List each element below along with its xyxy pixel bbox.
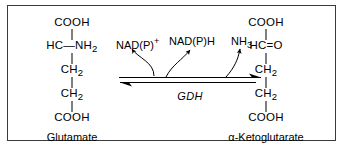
glutamate-label: Glutamate bbox=[12, 131, 132, 143]
ketoglutarate-row-carboxyl-bottom: COOH bbox=[206, 111, 326, 124]
molecule-ketoglutarate: COOH HC=O CH2 CH2 COOH α-Ketoglutarate bbox=[206, 15, 326, 135]
ketoglutarate-row-carboxyl-top: COOH bbox=[206, 16, 326, 29]
ketoglutarate-row-keto: HC=O bbox=[206, 39, 326, 52]
molecule-glutamate: COOH HC—NH2 CH2 CH2 COOH Glutamate bbox=[12, 15, 132, 135]
glutamate-row-carboxyl-top: COOH bbox=[12, 16, 132, 29]
ketoglutarate-label: α-Ketoglutarate bbox=[206, 131, 326, 143]
glutamate-row-carboxyl-bottom: COOH bbox=[12, 111, 132, 124]
figure-border: COOH HC—NH2 CH2 CH2 COOH Glutamate NAD(P… bbox=[7, 5, 336, 141]
